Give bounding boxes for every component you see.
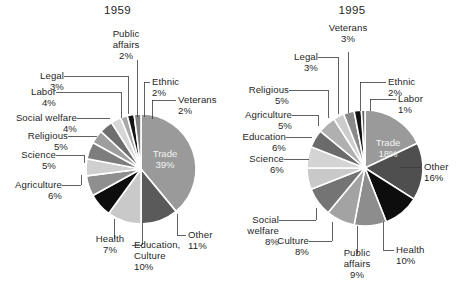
label-agriculture-pct-1959: 6% (0, 190, 62, 201)
label-other-1995: Other 16% (424, 161, 468, 183)
slice-label-trade-pct-1959: 39% (141, 159, 189, 170)
label-veterans-pct-1995: 3% (322, 33, 374, 44)
label-religious-pct-1995: 5% (243, 95, 289, 106)
label-public-affairs-pct-1995: 9% (333, 269, 381, 280)
label-public-affairs-name2-1959: affairs (100, 39, 152, 50)
label-education-1995: Education 6% (238, 131, 286, 153)
label-health-1995: Health 10% (396, 244, 442, 266)
label-health-pct-1959: 7% (86, 244, 134, 255)
label-veterans-1995: Veterans 3% (322, 22, 374, 44)
label-science-name-1995: Science (242, 153, 284, 164)
label-education-1959: Education, Culture 10% (134, 239, 196, 273)
label-science-pct-1959: 5% (4, 160, 56, 171)
label-public-affairs-name2-1995: affairs (333, 258, 381, 269)
label-other-name-1995: Other (424, 161, 468, 172)
slice-label-trade-1959: Trade 39% (141, 148, 189, 170)
label-public-affairs-name-1995: Public (333, 247, 381, 258)
slice-label-trade-pct-1995: 18% (364, 148, 412, 159)
label-labor-pct-1995: 1% (398, 104, 430, 115)
label-science-1995: Science 6% (242, 153, 284, 175)
label-agriculture-1959: Agriculture 6% (0, 179, 62, 201)
label-health-1959: Health 7% (86, 233, 134, 255)
label-health-name-1995: Health (396, 244, 442, 255)
pie-1995 (307, 110, 423, 226)
label-other-pct-1995: 16% (424, 172, 468, 183)
label-agriculture-pct-1995: 5% (238, 120, 292, 131)
label-labor-1995: Labor 1% (398, 93, 438, 115)
label-legal-1995: Legal 3% (276, 51, 318, 73)
label-religious-name-1995: Religious (243, 84, 289, 95)
label-religious-1995: Religious 5% (243, 84, 289, 106)
label-agriculture-name-1995: Agriculture (238, 109, 292, 120)
label-veterans-1959: Veterans 2% (178, 94, 230, 116)
label-veterans-pct-1959: 2% (178, 105, 224, 116)
label-public-affairs-pct-1959: 2% (100, 50, 152, 61)
pie-chart-figure: 1959 1995 (0, 0, 469, 292)
label-culture-pct-1995: 8% (265, 246, 309, 257)
label-social-welfare-name-1959: Social welfare (2, 112, 77, 123)
label-education-name-1959: Education, (134, 239, 196, 250)
label-religious-name-1959: Religious (8, 130, 68, 141)
label-public-affairs-1959: Public affairs 2% (100, 28, 152, 62)
label-public-affairs-1995: Public affairs 9% (333, 247, 381, 281)
label-legal-pct-1995: 3% (276, 62, 318, 73)
label-labor-pct-1959: 4% (12, 97, 56, 108)
label-public-affairs-name-1959: Public (100, 28, 152, 39)
label-agriculture-name-1959: Agriculture (0, 179, 62, 190)
slice-label-trade-name-1995: Trade (364, 137, 412, 148)
slice-label-trade-1995: Trade 18% (364, 137, 412, 159)
label-ethnic-name-1959: Ethnic (152, 76, 192, 87)
label-ethnic-name-1995: Ethnic (388, 76, 432, 87)
label-labor-name-1959: Labor (12, 86, 56, 97)
label-education-pct-1959: 10% (134, 261, 190, 272)
label-education-name2-1959: Culture (134, 250, 190, 261)
label-other-name-1959: Other (188, 229, 232, 240)
label-health-pct-1995: 10% (396, 255, 442, 266)
label-education-pct-1995: 6% (238, 142, 286, 153)
label-veterans-name-1995: Veterans (322, 22, 374, 33)
label-other-pct-1959: 11% (188, 240, 232, 251)
label-education-name-1995: Education (238, 131, 286, 142)
label-other-1959: Other 11% (188, 229, 232, 251)
label-culture-name-1995: Culture (265, 235, 309, 246)
label-labor-1959: Labor 4% (12, 86, 56, 108)
label-veterans-name-1959: Veterans (178, 94, 230, 105)
label-science-name-1959: Science (4, 149, 56, 160)
slice-label-trade-name-1959: Trade (141, 148, 189, 159)
label-agriculture-1995: Agriculture 5% (238, 109, 292, 131)
label-health-name-1959: Health (86, 233, 134, 244)
label-legal-name-1995: Legal (276, 51, 318, 62)
label-social-welfare-name-1995: Social (240, 214, 279, 225)
label-science-1959: Science 5% (4, 149, 56, 171)
label-labor-name-1995: Labor (398, 93, 438, 104)
label-culture-1995: Culture 8% (265, 235, 309, 257)
label-legal-name-1959: Legal (20, 70, 64, 81)
label-science-pct-1995: 6% (242, 164, 284, 175)
